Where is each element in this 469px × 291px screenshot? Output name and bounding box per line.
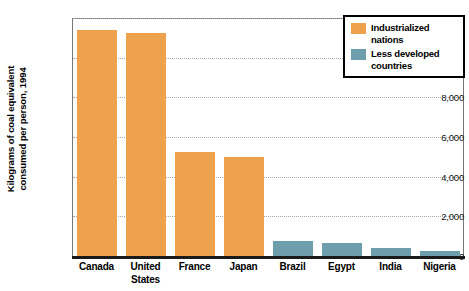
x-axis-category-label: France	[170, 261, 219, 274]
bar	[371, 248, 411, 256]
x-axis-category-label: Nigeria	[415, 261, 464, 274]
x-axis-category-label: India	[366, 261, 415, 274]
legend-label-industrialized-line-1: Industrialized	[371, 22, 429, 33]
legend-label-less-developed-line-2: countries	[371, 60, 412, 71]
legend-swatch-less-developed	[351, 49, 366, 60]
legend-label-industrialized: Industrialized nations	[371, 22, 458, 45]
x-axis-category-label: Egypt	[317, 261, 366, 274]
bar	[224, 157, 264, 256]
bar	[126, 33, 166, 256]
y-axis-title-line-2: consumed per person, 1994	[17, 66, 29, 193]
bar	[175, 152, 215, 256]
x-axis-category-label: Brazil	[268, 261, 317, 274]
bar	[273, 241, 313, 256]
y-axis-title: Kilograms of coal equivalent consumed pe…	[0, 0, 34, 258]
legend-label-industrialized-line-2: nations	[371, 34, 403, 45]
x-axis-category-labels: CanadaUnitedStatesFranceJapanBrazilEgypt…	[72, 261, 464, 291]
bar-chart: Kilograms of coal equivalent consumed pe…	[0, 0, 469, 291]
x-axis-category-label: Japan	[219, 261, 268, 274]
legend-item-industrialized: Industrialized nations	[351, 22, 458, 45]
x-axis-baseline	[72, 256, 465, 259]
bar	[322, 243, 362, 256]
x-axis-category-label: UnitedStates	[121, 261, 170, 286]
y-axis-title-line-1: Kilograms of coal equivalent	[5, 66, 17, 193]
chart-legend: Industrialized nations Less developed co…	[343, 15, 465, 78]
legend-label-less-developed-line-1: Less developed	[371, 48, 439, 59]
x-axis-category-label: Canada	[72, 261, 121, 274]
legend-item-less-developed: Less developed countries	[351, 48, 458, 71]
bar	[77, 30, 117, 256]
bar	[420, 251, 460, 256]
legend-label-less-developed: Less developed countries	[371, 48, 458, 71]
legend-swatch-industrialized	[351, 23, 366, 34]
